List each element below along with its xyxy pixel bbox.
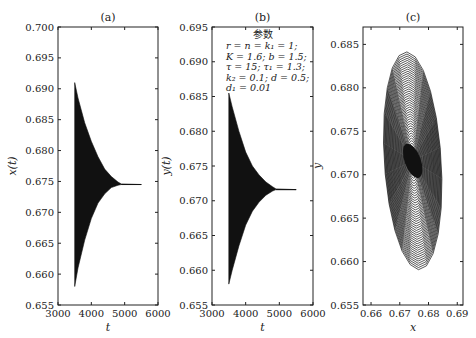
x-tick-label: 6000 [145, 308, 170, 319]
y-tick-label: 0.700 [25, 22, 54, 33]
y-tick-label: 0.690 [25, 83, 54, 94]
x-tick-label: 0.67 [389, 308, 411, 319]
x-tick-label: 6000 [300, 308, 325, 319]
x-tick-label: 4000 [233, 308, 258, 319]
y-tick-label: 0.655 [25, 300, 54, 311]
x-axis-label: t [260, 321, 265, 334]
parameter-line: K = 1.6; b = 1.5; [225, 51, 307, 62]
y-axis-label: y [311, 162, 324, 170]
figure: 30004000500060000.6550.6600.6650.6700.67… [0, 0, 476, 338]
y-tick-label: 0.670 [25, 207, 54, 218]
y-tick-label: 0.685 [179, 91, 208, 102]
x-tick-label: 0.66 [360, 308, 382, 319]
x-axis-label: x [410, 321, 417, 334]
y-tick-label: 0.690 [179, 56, 208, 67]
y-tick-label: 0.675 [25, 176, 54, 187]
x-tick-label: 0.68 [417, 308, 439, 319]
parameter-line: τ = 15; τ₁ = 1.3; [226, 61, 305, 72]
x-tick-label: 5000 [112, 308, 137, 319]
y-tick-label: 0.680 [25, 145, 54, 156]
y-tick-label: 0.665 [179, 230, 208, 241]
x-axis-label: t [106, 321, 111, 334]
parameters-title: 参数 [253, 28, 273, 40]
y-axis-label: x(t) [6, 156, 19, 175]
panel-title: (c) [406, 11, 421, 24]
y-tick-label: 0.680 [330, 82, 359, 93]
y-tick-label: 0.680 [179, 126, 208, 137]
panel-title: (a) [100, 11, 115, 24]
y-tick-label: 0.655 [330, 300, 359, 311]
y-tick-label: 0.670 [330, 169, 359, 180]
y-tick-label: 0.660 [179, 265, 208, 276]
y-tick-label: 0.665 [330, 213, 359, 224]
panel-c: 0.660.670.680.690.6550.6600.6650.6700.67… [311, 11, 468, 334]
y-tick-label: 0.685 [330, 39, 359, 50]
parameter-line: k₂ = 0.1; d = 0.5; [226, 72, 309, 83]
y-tick-label: 0.660 [25, 269, 54, 280]
parameter-line: r = n = k₁ = 1; [226, 40, 297, 51]
axes-frame [58, 27, 158, 305]
panel-b: 30004000500060000.6550.6600.6650.6700.67… [160, 11, 326, 334]
y-tick-label: 0.660 [330, 256, 359, 267]
y-tick-label: 0.655 [179, 300, 208, 311]
y-tick-label: 0.675 [179, 161, 208, 172]
x-tick-label: 0.69 [446, 308, 468, 319]
y-tick-label: 0.695 [25, 52, 54, 63]
x-tick-label: 5000 [267, 308, 292, 319]
parameter-line: d₁ = 0.01 [226, 82, 271, 93]
y-tick-label: 0.665 [25, 238, 54, 249]
phase-orbits [384, 52, 442, 270]
y-axis-label: y(t) [160, 156, 173, 176]
panel-a: 30004000500060000.6550.6600.6650.6700.67… [6, 11, 171, 334]
oscillation-band [229, 93, 296, 284]
y-tick-label: 0.675 [330, 126, 359, 137]
y-tick-label: 0.685 [25, 114, 54, 125]
y-tick-label: 0.695 [179, 22, 208, 33]
y-tick-label: 0.670 [179, 195, 208, 206]
x-tick-label: 4000 [79, 308, 104, 319]
panel-title: (b) [255, 11, 271, 24]
